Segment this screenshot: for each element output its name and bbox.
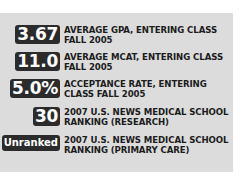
stat-value-badge: 3.67 <box>15 25 60 44</box>
stat-row-mcat: 11.0 AVERAGE MCAT, ENTERING CLASS FALL 2… <box>0 52 233 72</box>
stat-label: ACCEPTANCE RATE, ENTERING CLASS FALL 200… <box>64 79 207 99</box>
stats-panel: 3.67 AVERAGE GPA, ENTERING CLASS FALL 20… <box>0 13 233 172</box>
stat-label: 2007 U.S. NEWS MEDICAL SCHOOL RANKING (R… <box>64 107 228 127</box>
stat-row-acceptance: 5.0% ACCEPTANCE RATE, ENTERING CLASS FAL… <box>0 79 233 99</box>
stat-value-badge: 5.0% <box>10 79 60 98</box>
stat-value-badge: Unranked <box>2 135 60 151</box>
stat-label: AVERAGE GPA, ENTERING CLASS FALL 2005 <box>64 25 217 45</box>
stat-label: AVERAGE MCAT, ENTERING CLASS FALL 2005 <box>64 52 223 72</box>
stat-value-badge: 11.0 <box>15 52 60 71</box>
stat-row-research-ranking: 30 2007 U.S. NEWS MEDICAL SCHOOL RANKING… <box>0 107 233 127</box>
stat-row-gpa: 3.67 AVERAGE GPA, ENTERING CLASS FALL 20… <box>0 25 233 45</box>
stat-row-primary-care-ranking: Unranked 2007 U.S. NEWS MEDICAL SCHOOL R… <box>0 135 233 155</box>
stat-label: 2007 U.S. NEWS MEDICAL SCHOOL RANKING (P… <box>64 135 228 155</box>
stat-value-badge: 30 <box>33 107 60 126</box>
